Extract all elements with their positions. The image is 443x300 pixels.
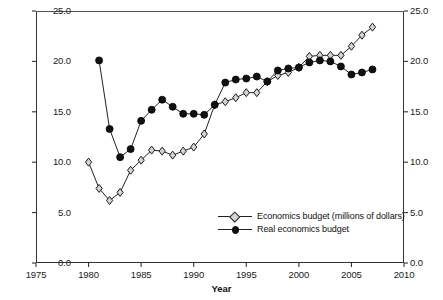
data-point — [243, 75, 250, 82]
data-point — [190, 110, 197, 117]
data-point — [222, 79, 229, 86]
data-point — [128, 166, 134, 174]
data-point — [358, 69, 365, 76]
y-axis-right-tick-label: 15.0 — [410, 107, 428, 117]
data-series-group — [85, 23, 376, 204]
data-point — [253, 73, 260, 80]
data-point — [96, 57, 103, 64]
data-point — [306, 59, 313, 66]
data-point — [264, 78, 271, 85]
data-point — [295, 64, 302, 71]
y-axis-left-tick-label: 0.0 — [58, 258, 71, 268]
x-axis-tick-label: 2000 — [279, 270, 319, 280]
legend-label-economics-budget: Economics budget (millions of dollars) — [257, 210, 405, 223]
data-point — [159, 147, 165, 155]
y-axis-left-tick-label: 15.0 — [53, 107, 71, 117]
data-point — [211, 101, 218, 108]
data-point — [337, 63, 344, 70]
open-diamond-marker-icon — [218, 210, 252, 223]
x-axis-tick-label: 1995 — [226, 270, 266, 280]
data-point — [85, 158, 91, 166]
data-point — [201, 111, 208, 118]
y-axis-right-tick-label: 10.0 — [410, 157, 428, 167]
data-point — [233, 94, 239, 102]
data-point — [117, 154, 124, 161]
filled-circle-marker-icon — [218, 223, 252, 236]
data-point — [338, 51, 344, 59]
data-point — [285, 65, 292, 72]
data-point — [138, 117, 145, 124]
data-point — [159, 96, 166, 103]
legend-label-real-economics-budget: Real economics budget — [257, 223, 349, 236]
y-axis-right-tick-label: 0.0 — [410, 258, 423, 268]
y-axis-left-tick-label: 5.0 — [58, 208, 71, 218]
data-point — [117, 188, 123, 196]
data-point — [222, 98, 228, 106]
data-point — [127, 146, 134, 153]
y-axis-right-tick-label: 20.0 — [410, 56, 428, 66]
data-point — [348, 71, 355, 78]
legend-item-economics-budget: Economics budget (millions of dollars) — [218, 210, 405, 223]
chart-figure: 0.05.010.015.020.025.0 0.05.010.015.020.… — [0, 0, 443, 300]
data-point — [148, 106, 155, 113]
x-axis-tick-label: 2010 — [384, 270, 424, 280]
data-point — [369, 23, 375, 31]
x-axis-tick-label: 1975 — [16, 270, 56, 280]
x-axis-tick-label: 2005 — [331, 270, 371, 280]
x-axis-tick-label: 1980 — [69, 270, 109, 280]
series-real-economics-budget — [96, 57, 376, 161]
data-point — [274, 67, 281, 74]
data-point — [138, 156, 144, 164]
y-axis-left-tick-label: 10.0 — [53, 157, 71, 167]
y-axis-left-tick-label: 25.0 — [53, 6, 71, 16]
x-axis-tick-label: 1990 — [174, 270, 214, 280]
y-axis-left-tick-label: 20.0 — [53, 56, 71, 66]
data-point — [106, 125, 113, 132]
data-point — [170, 151, 176, 159]
series-economics-budget — [85, 23, 375, 204]
chart-canvas — [0, 0, 443, 300]
data-point — [327, 58, 334, 65]
data-point — [232, 76, 239, 83]
data-point — [180, 147, 186, 155]
y-axis-right-tick-label: 5.0 — [410, 208, 423, 218]
data-point — [243, 89, 249, 97]
data-point — [369, 66, 376, 73]
data-point — [180, 110, 187, 117]
x-axis-title: Year — [0, 283, 443, 294]
data-point — [316, 57, 323, 64]
x-axis-tick-label: 1985 — [121, 270, 161, 280]
y-axis-right-tick-label: 25.0 — [410, 6, 428, 16]
data-point — [149, 146, 155, 154]
data-point — [169, 103, 176, 110]
chart-legend: Economics budget (millions of dollars) R… — [218, 210, 405, 236]
legend-item-real-economics-budget: Real economics budget — [218, 223, 405, 236]
